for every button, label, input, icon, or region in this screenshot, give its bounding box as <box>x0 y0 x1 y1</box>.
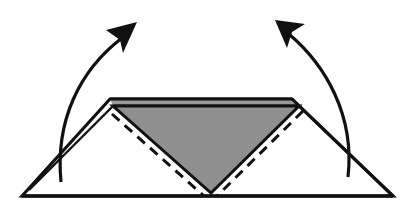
origami-diagram: Origami folding step: two side flaps of … <box>0 0 418 217</box>
